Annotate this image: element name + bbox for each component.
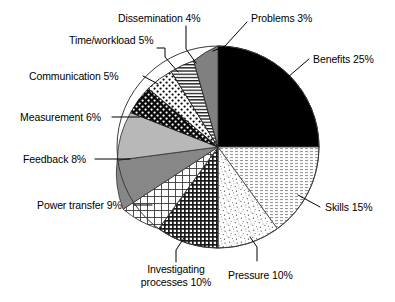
slice-label-measurement: Measurement 6% bbox=[20, 111, 101, 124]
slice-label-problems: Problems 3% bbox=[251, 12, 312, 25]
slice-label-feedback: Feedback 8% bbox=[23, 153, 86, 166]
slice-label-time-workload: Time/workload 5% bbox=[69, 34, 153, 47]
leader-line-benefits bbox=[288, 59, 309, 77]
slice-label-power-transfer: Power transfer 9% bbox=[37, 199, 122, 212]
slice-label-investigating-processes: Investigating processes 10% bbox=[131, 263, 221, 288]
slice-label-skills: Skills 15% bbox=[325, 201, 372, 214]
leader-line-dissemination bbox=[186, 26, 196, 63]
leader-line-time-workload bbox=[157, 48, 178, 72]
slice-label-communication: Communication 5% bbox=[29, 70, 118, 83]
pie-chart: Dissemination 4% Problems 3% Time/worklo… bbox=[0, 0, 395, 302]
pie-chart-svg bbox=[0, 0, 395, 302]
leader-line-communication bbox=[143, 76, 158, 84]
slice-label-benefits: Benefits 25% bbox=[313, 53, 374, 66]
slice-label-pressure: Pressure 10% bbox=[228, 269, 293, 282]
slice-label-dissemination: Dissemination 4% bbox=[118, 12, 200, 25]
pie-slice-benefits[interactable] bbox=[218, 46, 319, 147]
